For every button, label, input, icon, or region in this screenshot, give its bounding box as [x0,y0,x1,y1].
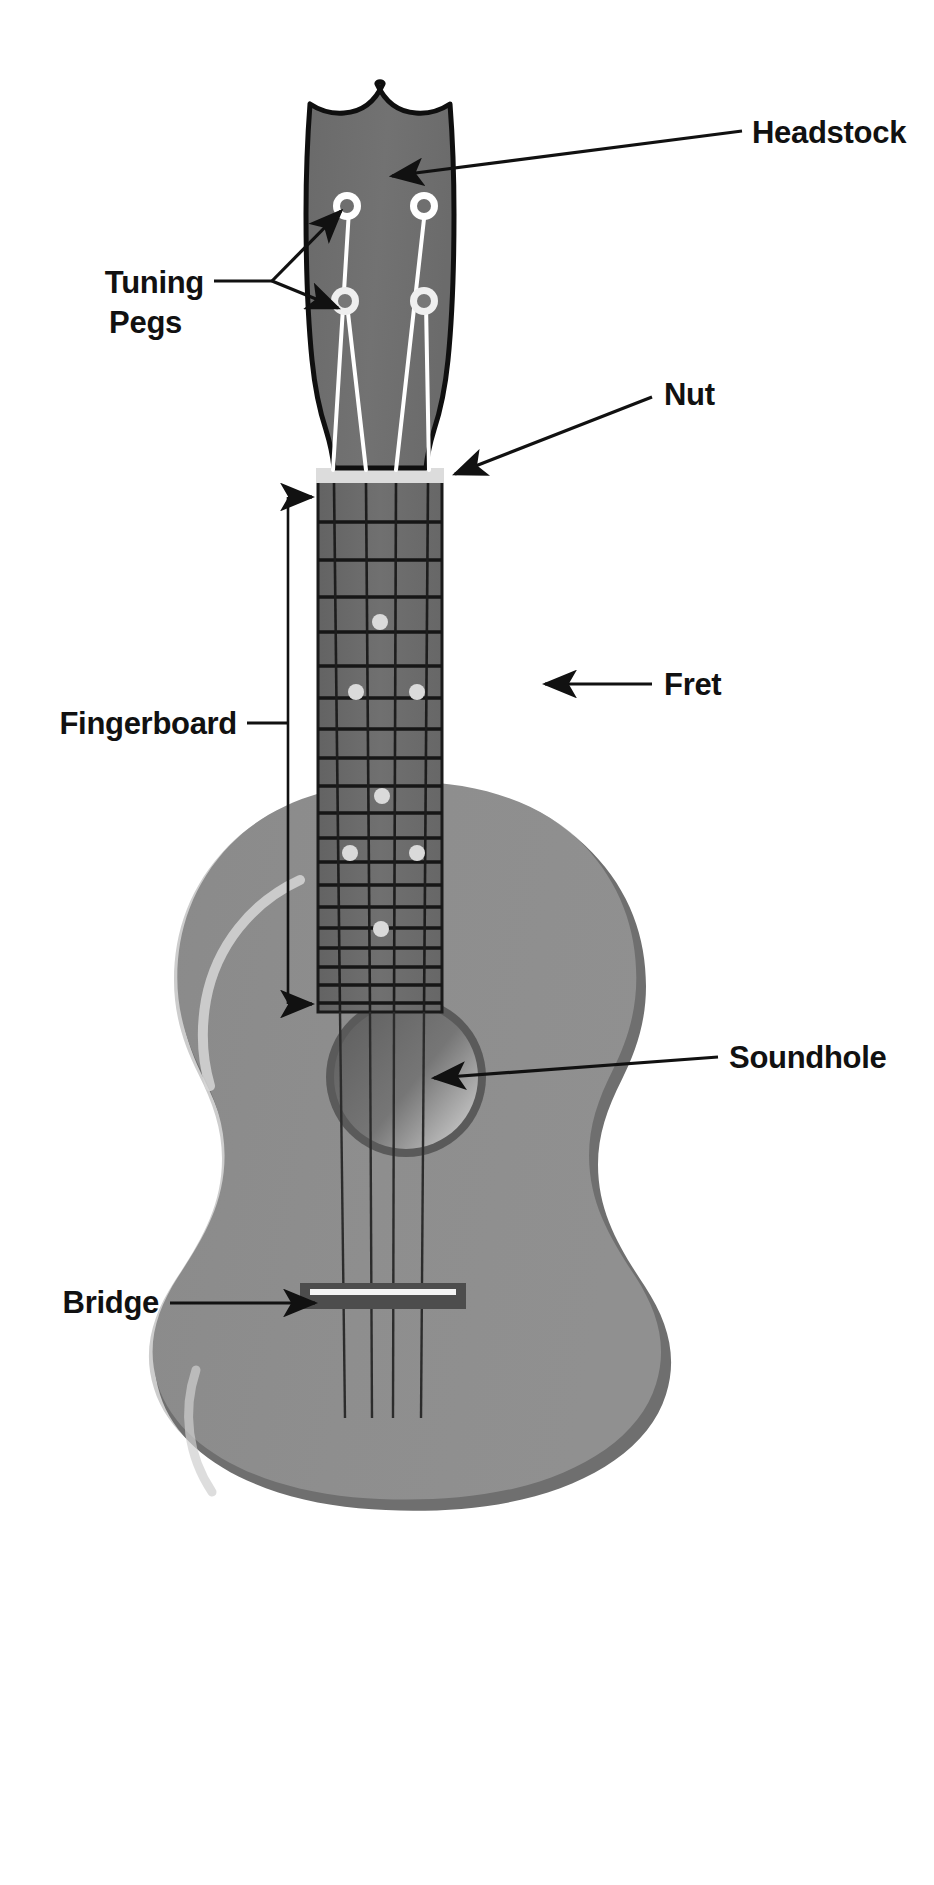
tuning-peg [410,287,438,315]
label-tuning-pegs-line1: Tuning [105,265,204,300]
inlay-dot [342,845,358,861]
ukulele-illustration: Headstock Tuning Pegs Nut Fingerboard Fr… [0,0,934,1885]
body-string [393,1012,394,1418]
inlay-dot [372,614,388,630]
label-fingerboard: Fingerboard [59,706,237,741]
bridge-group [300,1283,466,1309]
fingerboard-group [318,481,442,1012]
headstock [306,82,454,468]
label-nut: Nut [664,377,715,412]
inlay-dot [409,845,425,861]
label-tuning-pegs-line2: Pegs [109,305,182,340]
inlay-dot [409,684,425,700]
inlay-dot [374,788,390,804]
tuning-peg [331,287,359,315]
leader-nut [455,397,652,474]
inlay-dot [348,684,364,700]
label-headstock: Headstock [752,115,907,150]
ukulele-diagram: Headstock Tuning Pegs Nut Fingerboard Fr… [0,0,934,1885]
bridge [300,1283,466,1309]
tuning-peg-hole [340,199,354,213]
headstock-group [306,82,454,470]
bridge-saddle [310,1289,456,1295]
tuning-peg-hole [417,199,431,213]
tuning-peg-hole [417,294,431,308]
label-fret: Fret [664,667,721,702]
tuning-peg [410,192,438,220]
label-soundhole: Soundhole [729,1040,887,1075]
inlay-dot [373,921,389,937]
tuning-peg-hole [338,294,352,308]
label-bridge: Bridge [63,1285,159,1320]
